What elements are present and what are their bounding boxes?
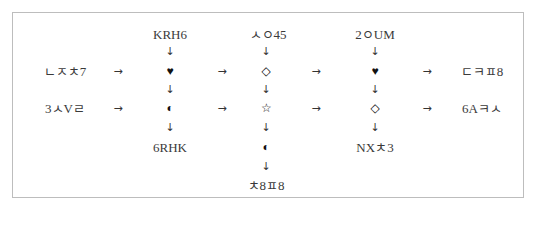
row-1-output-label: ㄷㅋㅍ8 <box>461 65 504 78</box>
row-2-input-label: 3ㅅVㄹ <box>45 102 85 115</box>
right-arrow-icon: → <box>113 66 122 77</box>
down-arrow-icon: ↓ <box>165 122 174 133</box>
column-1-bottom-label: 6RHK <box>153 141 187 154</box>
column-3-top-label: 2ㅇUM <box>355 28 394 41</box>
diamond-outline-icon: ◇ <box>261 65 270 77</box>
heart-icon: ♥ <box>371 65 378 77</box>
down-arrow-icon: ↓ <box>165 84 174 95</box>
down-arrow-icon: ↓ <box>261 84 270 95</box>
column-1-top-label: KRH6 <box>153 28 187 41</box>
down-arrow-icon: ↓ <box>261 161 270 172</box>
right-arrow-icon: → <box>113 103 122 114</box>
column-3-bottom-label: NXㅊ3 <box>356 141 393 154</box>
down-arrow-icon: ↓ <box>165 46 174 57</box>
down-arrow-icon: ↓ <box>261 46 270 57</box>
column-2-top-label: ㅅㅇ45 <box>250 28 287 41</box>
row-2-output-label: 6Aㅋㅅ <box>462 102 502 115</box>
down-arrow-icon: ↓ <box>261 122 270 133</box>
diamond-outline-icon: ◇ <box>370 102 379 114</box>
right-arrow-icon: → <box>422 103 431 114</box>
right-arrow-icon: → <box>422 66 431 77</box>
right-arrow-icon: → <box>311 103 320 114</box>
column-2-bottom-label: ㅊ8ㅍ8 <box>248 179 285 192</box>
row-1-input-label: ㄴㅈㅊ7 <box>44 65 87 78</box>
down-arrow-icon: ↓ <box>370 84 379 95</box>
right-arrow-icon: → <box>311 66 320 77</box>
down-arrow-icon: ↓ <box>370 122 379 133</box>
down-arrow-icon: ↓ <box>370 46 379 57</box>
star-outline-icon: ☆ <box>261 102 272 114</box>
half-circle-icon: ◐ <box>166 102 173 114</box>
heart-icon: ♥ <box>166 65 173 77</box>
right-arrow-icon: → <box>217 66 226 77</box>
half-circle-icon: ◐ <box>262 141 269 153</box>
right-arrow-icon: → <box>217 103 226 114</box>
